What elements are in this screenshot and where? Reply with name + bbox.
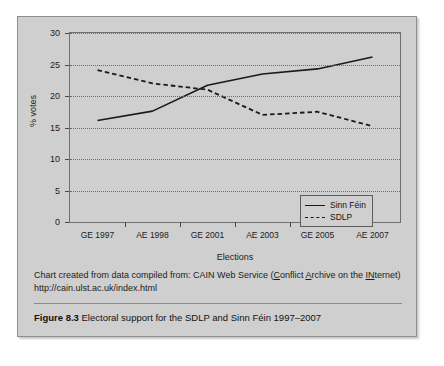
- gridline-y-5: [70, 191, 400, 192]
- y-tick-label-15: 15: [50, 123, 60, 133]
- y-tick-mark-30: [65, 33, 69, 34]
- figure-caption-label: Figure 8.3: [34, 312, 79, 323]
- x-tick-label-ge-2005: GE 2005: [301, 230, 335, 240]
- x-axis-title: Elections: [69, 252, 401, 262]
- x-tick-label-ae-2003: AE 2003: [246, 230, 279, 240]
- x-tick-label-ge-2001: GE 2001: [191, 230, 225, 240]
- x-tick-label-ge-1997: GE 1997: [81, 230, 115, 240]
- legend-swatch-solid-icon: [305, 201, 325, 209]
- x-tick-mark-1: [125, 222, 126, 227]
- x-tick-mark-3: [235, 222, 236, 227]
- y-tick-label-25: 25: [50, 60, 60, 70]
- legend-item-sdlp: SDLP: [305, 211, 366, 223]
- chart-plot-inner: [70, 33, 400, 222]
- y-tick-mark-5: [65, 191, 69, 192]
- y-tick-mark-25: [65, 65, 69, 66]
- legend-item-sinn-fein: Sinn Féin: [305, 199, 366, 211]
- source-note-line1: Chart created from data compiled from: C…: [34, 270, 335, 280]
- gridline-y-30: [70, 33, 400, 34]
- figure-panel: 051015202530 GE 1997AE 1998GE 2001AE 200…: [17, 16, 417, 337]
- y-tick-mark-15: [65, 128, 69, 129]
- figure-screenshot: 051015202530 GE 1997AE 1998GE 2001AE 200…: [0, 0, 444, 366]
- gridline-y-20: [70, 96, 400, 97]
- x-tick-mark-2: [180, 222, 181, 227]
- series-line-sinn-f-in: [98, 57, 373, 121]
- legend-label-sinn-fein: Sinn Féin: [330, 200, 366, 210]
- gridline-y-25: [70, 65, 400, 66]
- x-tick-mark-4: [290, 222, 291, 227]
- x-tick-label-ae-2007: AE 2007: [356, 230, 389, 240]
- y-tick-mark-10: [65, 159, 69, 160]
- source-note: Chart created from data compiled from: C…: [34, 269, 404, 295]
- figure-caption-text: Electoral support for the SDLP and Sinn …: [82, 312, 322, 323]
- legend-swatch-dashed-icon: [305, 213, 325, 221]
- x-tick-label-ae-1998: AE 1998: [136, 230, 169, 240]
- y-tick-mark-20: [65, 96, 69, 97]
- series-line-sdlp: [98, 70, 373, 126]
- y-tick-mark-0: [65, 222, 69, 223]
- y-tick-label-5: 5: [55, 186, 60, 196]
- chart-legend: Sinn Féin SDLP: [300, 195, 373, 227]
- gridline-y-10: [70, 159, 400, 160]
- y-tick-label-20: 20: [50, 91, 60, 101]
- y-tick-label-10: 10: [50, 154, 60, 164]
- caption-divider: [34, 303, 402, 304]
- figure-caption: Figure 8.3 Electoral support for the SDL…: [34, 311, 406, 324]
- y-axis-title: % votes: [28, 95, 38, 127]
- gridline-y-15: [70, 128, 400, 129]
- legend-label-sdlp: SDLP: [330, 212, 352, 222]
- y-tick-label-30: 30: [50, 28, 60, 38]
- y-tick-label-0: 0: [55, 217, 60, 227]
